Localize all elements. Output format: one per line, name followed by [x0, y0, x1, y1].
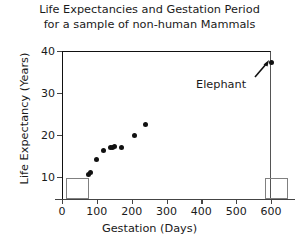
lower-right-box-annotation — [265, 178, 288, 199]
y-tick-20 — [57, 135, 62, 136]
y-axis-title: Life Expectancy (Years) — [18, 39, 31, 199]
x-tick-0 — [62, 199, 63, 204]
y-tick-label-30: 30 — [29, 87, 55, 100]
chart-title-line-2: for a sample of non-human Mammals — [0, 17, 299, 32]
chart-figure: Life Expectancies and Gestation Period f… — [0, 0, 299, 250]
x-tick-100 — [97, 199, 98, 204]
elephant-arrow-icon — [252, 58, 274, 80]
x-tick-500 — [236, 199, 237, 204]
y-tick-label-40: 40 — [29, 45, 55, 58]
x-tick-400 — [201, 199, 202, 204]
chart-title-line-1: Life Expectancies and Gestation Period — [0, 2, 299, 17]
x-tick-label-600: 600 — [251, 205, 291, 218]
y-tick-30 — [57, 93, 62, 94]
x-axis-title: Gestation (Days) — [0, 222, 299, 235]
x-tick-300 — [167, 199, 168, 204]
chart-title: Life Expectancies and Gestation Period f… — [0, 2, 299, 32]
x-axis-line — [55, 199, 295, 201]
lower-left-box-annotation — [66, 178, 89, 199]
y-tick-40 — [57, 51, 62, 52]
plot-area — [62, 51, 271, 199]
y-tick-10 — [57, 177, 62, 178]
data-point — [119, 145, 124, 150]
y-tick-label-20: 20 — [29, 129, 55, 142]
x-tick-600 — [271, 199, 272, 204]
y-tick-label-10: 10 — [29, 171, 55, 184]
x-tick-200 — [132, 199, 133, 204]
